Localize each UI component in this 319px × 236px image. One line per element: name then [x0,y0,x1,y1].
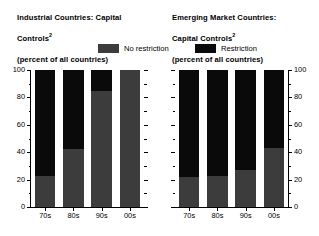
stacked-bar-70s[interactable] [35,70,55,207]
stacked-bar-80s[interactable] [63,70,83,207]
legend-item-restriction: Restriction [195,44,257,53]
y-tick-major [144,125,148,126]
stacked-bar-00s[interactable] [120,70,140,207]
y-tick-label-60: 60 [294,121,302,128]
y-tick-label-100: 100 [13,66,25,73]
bar-slot: 90s [88,70,116,207]
y-tick-minor [173,139,176,140]
bar-segment-restriction [207,70,227,175]
y-tick-minor [173,84,176,85]
x-tick-label-70s: 70s [175,211,203,220]
y-tick-major [171,180,175,181]
x-tick-label-00s: 00s [260,211,288,220]
panel-title-right-footnote-marker: 2 [232,33,235,39]
x-tick-label-80s: 80s [203,211,231,220]
bar-segment-no-restriction [35,176,55,208]
bar-slot: 70s [175,70,203,207]
stacked-bar-90s[interactable] [235,70,255,207]
x-axis-line-left [31,207,144,208]
x-tick-label-70s: 70s [31,211,59,220]
y-tick-label-20: 20 [17,176,25,183]
y-tick-major [144,70,148,71]
y-tick-major [144,97,148,98]
stacked-bar-70s[interactable] [179,70,199,207]
x-axis-line-right [175,207,288,208]
bar-segment-restriction [63,70,83,149]
legend-label-no-restriction: No restriction [124,44,169,53]
y-tick-major [171,97,175,98]
y-tick-minor [29,111,32,112]
y-tick-major [171,152,175,153]
y-tick-major [171,125,175,126]
y-tick-major [144,152,148,153]
panel-title-left-footnote-marker: 2 [49,33,52,39]
bar-group-left: 70s80s90s00s [31,70,144,207]
bar-segment-no-restriction [91,91,111,207]
bar-segment-restriction [235,70,255,170]
y-tick-major [144,180,148,181]
y-tick-minor [173,166,176,167]
x-tick-label-90s: 90s [88,211,116,220]
figure-capital-controls: Industrial Countries: Capital Controls2 … [0,0,319,236]
legend-swatch-no-restriction [98,44,119,53]
y-tick-major [27,152,31,153]
y-tick-minor [144,139,147,140]
y-tick-minor [144,166,147,167]
y-tick-label-0: 0 [21,203,25,210]
y-tick-minor [29,84,32,85]
legend-swatch-restriction [195,44,216,53]
panel-title-right-line2: Capital Controls [172,34,232,43]
y-tick-minor [144,111,147,112]
y-tick-label-0: 0 [294,203,298,210]
legend-item-no-restriction: No restriction [98,44,169,53]
bar-segment-restriction [264,70,284,148]
y-tick-major [144,207,148,208]
y-tick-major [27,97,31,98]
y-tick-minor [29,166,32,167]
legend-label-restriction: Restriction [221,44,257,53]
panel-title-right-line1: Emerging Market Countries: [172,13,276,22]
panel-title-right: Emerging Market Countries: Capital Contr… [172,3,317,65]
y-tick-minor [288,193,291,194]
y-tick-minor [29,139,32,140]
y-tick-label-40: 40 [294,148,302,155]
bar-segment-no-restriction [207,176,227,208]
y-tick-minor [288,111,291,112]
y-tick-label-20: 20 [294,176,302,183]
y-tick-major [171,70,175,71]
stacked-bar-00s[interactable] [264,70,284,207]
y-tick-major [27,125,31,126]
x-tick-label-00s: 00s [116,211,144,220]
chart-panel-industrial-countries: 70s80s90s00s 020406080100 [0,62,160,236]
y-tick-label-80: 80 [17,93,25,100]
bar-segment-no-restriction [264,148,284,207]
y-tick-minor [144,193,147,194]
panel-title-left: Industrial Countries: Capital Controls2 … [17,3,157,65]
y-tick-minor [29,193,32,194]
bar-slot: 90s [232,70,260,207]
x-tick-label-80s: 80s [59,211,87,220]
bar-slot: 70s [31,70,59,207]
bar-segment-no-restriction [235,170,255,207]
plot-area-right: 70s80s90s00s 020406080100 [175,70,288,207]
y-tick-major [288,125,292,126]
bar-segment-no-restriction [63,149,83,207]
bar-segment-no-restriction [179,177,199,207]
y-tick-major [288,207,292,208]
y-tick-major [27,70,31,71]
y-tick-major [27,207,31,208]
y-tick-minor [288,84,291,85]
panel-title-left-line2: Controls [17,34,49,43]
y-tick-major [288,70,292,71]
y-tick-major [288,152,292,153]
x-tick-label-90s: 90s [232,211,260,220]
y-tick-major [288,180,292,181]
bar-slot: 80s [203,70,231,207]
y-tick-label-80: 80 [294,93,302,100]
bar-segment-restriction [35,70,55,175]
stacked-bar-80s[interactable] [207,70,227,207]
y-tick-minor [144,84,147,85]
y-tick-major [27,180,31,181]
stacked-bar-90s[interactable] [91,70,111,207]
plot-area-left: 70s80s90s00s 020406080100 [31,70,144,207]
